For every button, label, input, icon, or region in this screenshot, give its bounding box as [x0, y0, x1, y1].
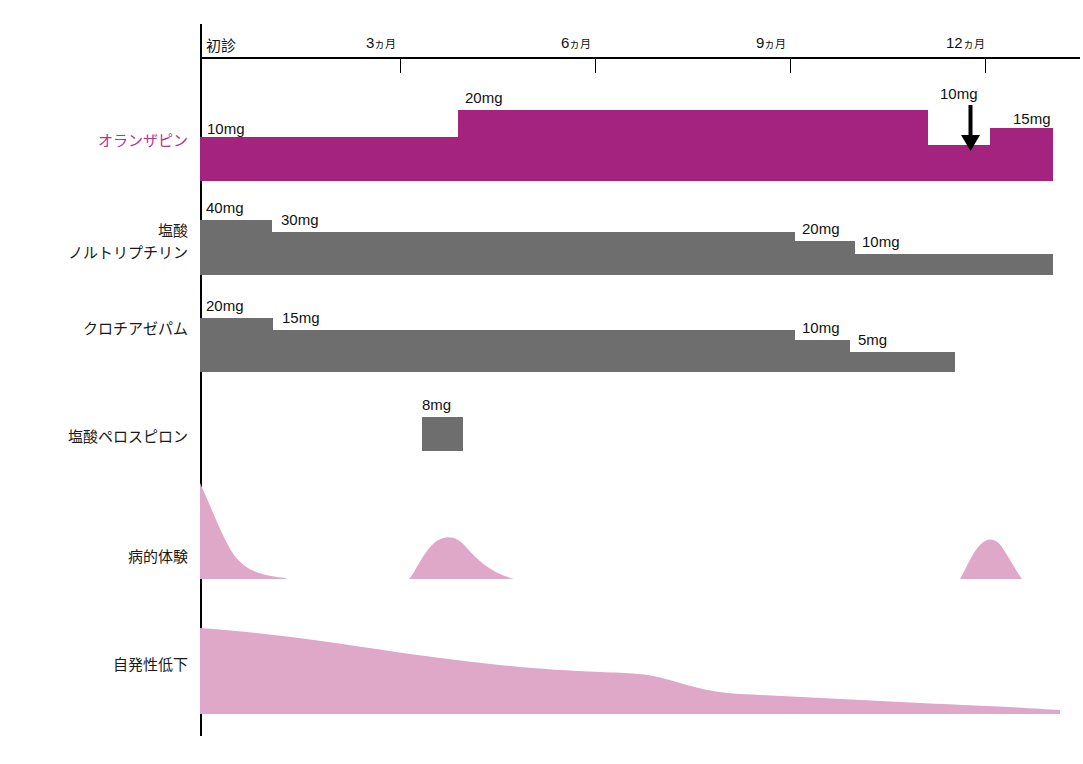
row-label-pathological-experience: 病的体験 [0, 546, 188, 568]
clotiazepam-seg-20mg [200, 318, 273, 372]
clotiazepam-dose-10mg: 10mg [802, 319, 840, 336]
nortriptyline-dose-20mg: 20mg [802, 220, 840, 237]
axis-label-3m: 3ヵ月 [366, 34, 396, 51]
row-label-reduced-spontaneity: 自発性低下 [0, 654, 188, 676]
row-label-nortriptyline-line1: 塩酸 [0, 220, 188, 242]
olanzapine-dose-10mg-drop: 10mg [940, 85, 978, 102]
axis-tick-1 [595, 57, 596, 73]
row-label-nortriptyline: 塩酸 ノルトリプチリン [0, 220, 188, 264]
axis-label-12m-unit: ヵ月 [963, 38, 985, 50]
axis-label-9m-unit: ヵ月 [764, 38, 786, 50]
olanzapine-seg-15mg [990, 128, 1053, 181]
axis-label-3m-unit: ヵ月 [374, 38, 396, 50]
x-axis-line [200, 57, 1080, 59]
perospirone-seg-8mg [422, 417, 463, 451]
olanzapine-dose-20mg: 20mg [465, 89, 503, 106]
clotiazepam-dose-5mg: 5mg [858, 331, 887, 348]
axis-tick-0 [400, 57, 401, 73]
nortriptyline-dose-10mg: 10mg [862, 233, 900, 250]
row-label-perospirone: 塩酸ペロスピロン [0, 426, 188, 448]
axis-label-initial: 初診 [206, 34, 236, 55]
row-label-nortriptyline-line2: ノルトリプチリン [0, 242, 188, 264]
timeline-chart: 初診 3ヵ月 6ヵ月 9ヵ月 12ヵ月 オランザピン 塩酸 ノルトリプチリン ク… [0, 0, 1083, 764]
clotiazepam-dose-15mg: 15mg [282, 309, 320, 326]
nortriptyline-seg-20mg [795, 241, 855, 275]
reduced-spontaneity-svg [200, 620, 1060, 716]
axis-label-6m-unit: ヵ月 [569, 38, 591, 50]
olanzapine-down-arrow-icon [960, 105, 982, 157]
olanzapine-dose-15mg: 15mg [1013, 110, 1051, 127]
axis-label-12m-value: 12 [946, 34, 963, 51]
axis-label-initial-text: 初診 [206, 37, 236, 54]
clotiazepam-seg-10mg [795, 340, 850, 372]
reduced-spontaneity-envelope [200, 620, 1060, 720]
row-label-olanzapine: オランザピン [0, 130, 188, 152]
axis-label-6m: 6ヵ月 [561, 34, 591, 51]
olanzapine-seg-10mg [200, 137, 458, 181]
olanzapine-seg-20mg [458, 110, 928, 181]
nortriptyline-seg-30mg [272, 232, 795, 275]
down-arrow-svg [960, 105, 982, 153]
axis-tick-2 [790, 57, 791, 73]
perospirone-dose-8mg: 8mg [422, 396, 451, 413]
pathological-experience-envelope [200, 483, 1060, 583]
nortriptyline-seg-10mg [855, 254, 1053, 275]
axis-label-9m: 9ヵ月 [756, 34, 786, 51]
axis-tick-3 [985, 57, 986, 73]
nortriptyline-seg-40mg [200, 220, 272, 275]
row-label-clotiazepam: クロチアゼパム [0, 318, 188, 340]
clotiazepam-dose-20mg: 20mg [206, 297, 244, 314]
axis-label-12m: 12ヵ月 [946, 34, 985, 51]
clotiazepam-seg-15mg [273, 330, 795, 372]
nortriptyline-dose-40mg: 40mg [206, 199, 244, 216]
nortriptyline-dose-30mg: 30mg [281, 211, 319, 228]
pathological-experience-svg [200, 483, 1060, 579]
olanzapine-dose-10mg: 10mg [207, 120, 245, 137]
clotiazepam-seg-5mg [850, 352, 955, 372]
